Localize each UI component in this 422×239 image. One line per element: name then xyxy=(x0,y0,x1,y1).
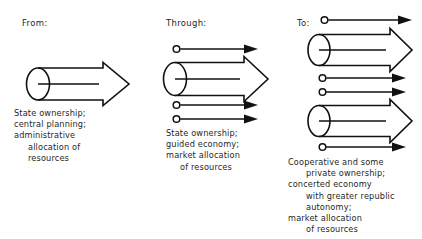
caption-line: allocation of xyxy=(14,142,86,153)
caption-line: of resources xyxy=(288,224,395,235)
caption-line: Cooperative and some xyxy=(288,157,395,168)
caption-line: resources xyxy=(14,153,86,164)
small-sector-arrow xyxy=(320,14,420,26)
diagram-column-from: From: State ownership; central planning;… xyxy=(0,0,140,239)
caption-line: State ownership; xyxy=(166,128,240,139)
state-sector-block-arrow xyxy=(162,56,274,102)
caption-line: central planning; xyxy=(14,119,86,130)
caption-line: administrative xyxy=(14,130,86,141)
small-sector-arrow xyxy=(318,141,418,153)
caption-line: State ownership; xyxy=(14,108,86,119)
small-sector-arrow xyxy=(318,72,418,84)
caption-line: with greater republic xyxy=(288,191,395,202)
state-sector-block-arrow xyxy=(25,62,137,106)
caption-line: guided economy; xyxy=(166,139,240,150)
column-caption-from: State ownership; central planning; admin… xyxy=(14,108,86,164)
caption-line: market allocation xyxy=(288,213,395,224)
caption-line: of resources xyxy=(166,162,240,173)
column-heading-from: From: xyxy=(22,18,47,28)
caption-line: autonomy; xyxy=(288,202,395,213)
column-caption-to: Cooperative and some private ownership; … xyxy=(288,157,395,235)
column-heading-to: To: xyxy=(297,18,310,28)
state-sector-block-arrow xyxy=(306,28,418,72)
column-heading-through: Through: xyxy=(166,18,207,28)
state-sector-block-arrow xyxy=(306,99,418,143)
small-sector-arrow xyxy=(172,113,264,125)
column-caption-through: State ownership; guided economy; market … xyxy=(166,128,240,173)
diagram-column-through: Through: xyxy=(140,0,280,239)
small-sector-arrow xyxy=(318,86,418,98)
caption-line: concerted economy xyxy=(288,179,395,190)
diagram-canvas: From: State ownership; central planning;… xyxy=(0,0,422,239)
diagram-column-to: To: xyxy=(280,0,422,239)
caption-line: market allocation xyxy=(166,150,240,161)
small-sector-arrow xyxy=(172,99,264,111)
caption-line: private ownership; xyxy=(288,168,395,179)
small-sector-arrow xyxy=(172,43,264,55)
